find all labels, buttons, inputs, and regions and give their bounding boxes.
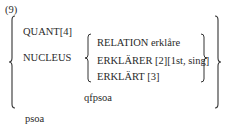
outer-left-brace	[9, 16, 15, 108]
outer-right-brace	[215, 16, 221, 108]
relation-feature: RELATION erklåre	[97, 37, 180, 49]
quant-feature: QUANT[4]	[23, 26, 72, 38]
inner-type-label: qfpsoa	[84, 92, 112, 104]
inner-left-brace	[85, 34, 91, 82]
outer-type-label: psoa	[25, 113, 44, 125]
nucleus-feature: NUCLEUS	[23, 52, 71, 64]
erklarer-feature: ERKLÄRER [2][1st, sing]	[97, 55, 209, 67]
erklart-feature: ERKLÄRT [3]	[97, 71, 159, 83]
example-number: (9)	[5, 4, 17, 16]
